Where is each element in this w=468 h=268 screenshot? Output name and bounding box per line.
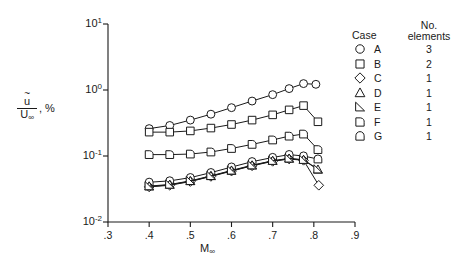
x-axis-label: M∞ [200,242,215,256]
y-axis-label-denominator: U [20,108,28,120]
x-tick-label: .8 [299,229,329,241]
data-point-marker-square [314,118,322,126]
legend-case-label: G [374,130,396,142]
legend-item-g[interactable]: G1 [352,129,462,144]
data-point-marker-circle [186,116,194,124]
x-tick-label: .5 [175,229,205,241]
data-point-marker-flag-f [145,151,153,159]
x-tick-label: .4 [134,229,164,241]
chart-figure: ~u U∞ , % M∞ Case No. elements A3B2C1D1E… [0,0,468,268]
legend-marker-flag-g [352,129,374,143]
legend-case-label: F [374,116,396,128]
data-point-marker-flag-f [207,148,215,156]
data-point-marker-square [228,121,236,129]
legend-case-label: B [374,58,396,70]
data-point-marker-square [187,127,195,135]
legend-marker-triangle [352,86,374,100]
legend-elements-value: 1 [396,130,462,142]
data-point-marker-flag-f [166,151,174,159]
data-point-marker-square [269,111,277,119]
legend-marker-square [352,57,374,71]
y-axis-label-suffix: , % [37,103,55,115]
data-point-marker-square [285,106,293,114]
y-tick-label: 10-2 [62,214,102,227]
y-tick-label: 101 [62,16,102,29]
legend-header-case: Case [352,29,396,42]
legend-case-label: A [374,43,396,55]
legend-case-label: D [374,87,396,99]
x-axis-label-sub: ∞ [209,247,215,256]
data-point-marker-flag-e [356,102,365,111]
data-point-marker-square [145,128,153,136]
legend-item-e[interactable]: E1 [352,100,462,115]
legend-case-label: C [374,72,396,84]
x-axis-label-text: M [200,242,209,254]
legend-elements-value: 1 [396,116,462,128]
legend-marker-diamond [352,71,374,85]
data-point-marker-square [300,102,308,110]
legend-marker-flag-f [352,115,374,129]
y-axis-label: ~u U∞ , % [6,96,66,122]
data-point-marker-flag-f [186,150,194,158]
data-point-marker-square [207,124,215,132]
data-point-marker-flag-f [285,132,293,140]
legend-elements-value: 1 [396,101,462,113]
data-point-marker-circle [300,80,308,88]
data-point-marker-flag-f [300,130,308,138]
legend-header-elements-line2: elements [396,31,462,42]
data-point-marker-square [248,116,256,124]
data-point-marker-flag-f [269,136,277,144]
y-tick-label: 100 [62,82,102,95]
x-tick-label: .6 [217,229,247,241]
legend-elements-value: 1 [396,87,462,99]
data-point-marker-flag-f [356,118,364,126]
data-point-marker-diamond [355,73,365,83]
data-point-marker-circle [269,91,277,99]
legend-elements-value: 3 [396,43,462,55]
data-point-marker-circle [356,45,364,53]
x-tick-label: .9 [340,229,370,241]
legend-case-label: E [374,101,396,113]
legend-marker-flag-e [352,100,374,114]
data-point-marker-flag-f [248,141,256,149]
y-axis-label-denominator-sub: ∞ [28,113,34,122]
data-point-marker-circle [312,80,320,88]
data-point-marker-flag-f [228,145,236,153]
x-tick-label: .7 [258,229,288,241]
data-point-marker-square [356,60,364,68]
legend-item-c[interactable]: C1 [352,71,462,86]
data-point-marker-circle [248,97,256,105]
legend-item-b[interactable]: B2 [352,57,462,72]
legend-elements-value: 1 [396,72,462,84]
data-point-marker-diamond [314,180,324,190]
legend-header-elements: No. elements [396,20,462,42]
legend-header: Case No. elements [352,20,462,42]
x-tick-label: .3 [93,229,123,241]
data-point-marker-flag-g [314,155,322,163]
legend-marker-circle [352,42,374,56]
data-point-marker-flag-g [356,132,364,141]
legend-item-d[interactable]: D1 [352,86,462,101]
data-point-marker-circle [207,110,215,118]
data-point-marker-flag-f [314,146,322,154]
legend-item-a[interactable]: A3 [352,42,462,57]
legend: Case No. elements A3B2C1D1E1F1G1 [352,20,462,144]
series-E [145,154,322,190]
data-point-marker-circle [285,85,293,93]
data-point-marker-circle [228,104,236,112]
data-point-marker-square [166,128,174,136]
legend-rows: A3B2C1D1E1F1G1 [352,42,462,144]
data-point-marker-triangle [355,88,365,97]
legend-elements-value: 2 [396,58,462,70]
y-tick-label: 10-1 [62,148,102,161]
legend-item-f[interactable]: F1 [352,115,462,130]
